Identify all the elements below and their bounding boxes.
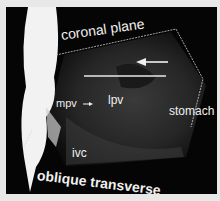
label-stomach: stomach (169, 105, 214, 117)
label-mpv: mpv (56, 98, 77, 109)
label-ivc: ivc (72, 147, 87, 159)
bright-structure (21, 7, 58, 192)
label-lpv: lpv (108, 94, 123, 106)
scan-image-panel: coronal plane mpv lpv stomach ivc obliqu… (6, 7, 217, 194)
